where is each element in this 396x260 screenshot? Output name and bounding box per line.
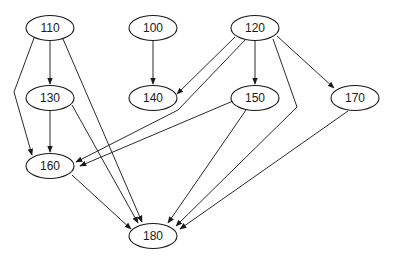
edge-170-to-180 bbox=[180, 111, 348, 229]
node-110: 110 bbox=[26, 16, 74, 41]
node-label: 160 bbox=[40, 159, 60, 173]
node-130: 130 bbox=[26, 86, 74, 111]
node-label: 120 bbox=[245, 21, 265, 35]
node-label: 110 bbox=[40, 21, 59, 35]
node-170: 170 bbox=[331, 86, 379, 111]
edge-120-to-140 bbox=[177, 37, 235, 94]
node-100: 100 bbox=[129, 16, 177, 41]
edge-120-to-170 bbox=[277, 36, 334, 88]
node-label: 170 bbox=[345, 91, 365, 105]
directed-graph-canvas: 110100120130140150170160180 bbox=[0, 0, 396, 260]
edge-150-to-180 bbox=[168, 110, 246, 223]
node-140: 140 bbox=[129, 86, 177, 111]
node-160: 160 bbox=[26, 154, 74, 179]
node-label: 130 bbox=[40, 91, 60, 105]
edges-layer bbox=[14, 36, 348, 229]
node-label: 100 bbox=[143, 21, 163, 35]
node-label: 140 bbox=[143, 91, 163, 105]
edge-160-to-180 bbox=[72, 175, 131, 229]
node-120: 120 bbox=[231, 16, 279, 41]
node-label: 180 bbox=[143, 229, 163, 243]
node-150: 150 bbox=[231, 86, 279, 111]
node-180: 180 bbox=[129, 224, 177, 249]
node-label: 150 bbox=[245, 91, 265, 105]
edge-110-to-180 bbox=[63, 39, 142, 222]
edge-120-to-180 bbox=[176, 39, 297, 226]
